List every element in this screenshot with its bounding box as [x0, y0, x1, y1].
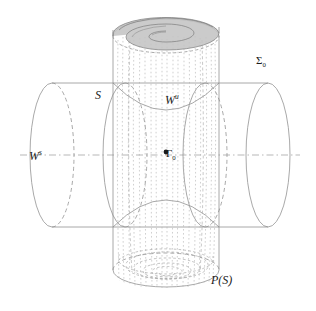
- figure-root: Σ0 Ws Wu S Γ0 P(S): [0, 0, 316, 311]
- spiral-bottom-image: [119, 249, 213, 279]
- label-w-unstable: Wu: [165, 93, 179, 106]
- label-strip-s: S: [95, 89, 101, 101]
- label-gamma-zero: Γ0: [166, 148, 176, 162]
- label-w-stable: Ws: [29, 149, 42, 162]
- spiral-band-top: [113, 17, 219, 50]
- diagram-canvas: [0, 0, 316, 311]
- label-image-of-s: P(S): [211, 274, 232, 286]
- label-sigma-zero: Σ0: [256, 55, 266, 69]
